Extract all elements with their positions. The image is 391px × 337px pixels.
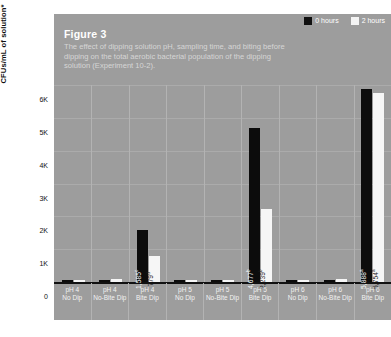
x-axis-labels: pH 4No DippH 4No-Bite DippH 4Bite DippH … — [54, 283, 391, 320]
x-axis-cell: pH 4No-Bite Dip — [92, 283, 130, 320]
y-axis-title: CFUs/mL of solution* — [0, 0, 8, 104]
bar-0-hours[interactable]: 5,888a — [361, 89, 372, 282]
bar-2-hours[interactable]: 2,239b — [261, 209, 272, 283]
x-axis-label: pH 4No-Bite Dip — [93, 286, 126, 302]
bar-group: 4,677b2,239b — [242, 85, 279, 282]
bar-0-hours[interactable] — [62, 280, 73, 282]
y-tick-4K: 4K — [39, 161, 48, 168]
y-tick-6K: 6K — [39, 96, 48, 103]
bar-group: 1,585c779d — [130, 85, 167, 282]
bar-group: 5,888a5,754a — [355, 85, 391, 282]
y-tick-1K: 1K — [39, 260, 48, 267]
x-axis-cell: pH 5Bite Dip — [242, 283, 280, 320]
bar-group — [317, 85, 354, 282]
x-axis-label: pH 5No Dip — [175, 286, 195, 302]
x-axis-label: pH 4No Dip — [62, 286, 82, 302]
bar-groups: 1,585c779d4,677b2,239b5,888a5,754a — [55, 85, 391, 282]
x-axis-cell: pH 4Bite Dip — [129, 283, 167, 320]
x-axis-label: pH 5Bite Dip — [249, 286, 272, 302]
bar-2-hours[interactable] — [298, 280, 309, 282]
y-tick-3K: 3K — [39, 194, 48, 201]
bar-2-hours[interactable] — [223, 280, 234, 282]
bar-0-hours[interactable] — [324, 280, 335, 282]
x-axis-label: pH 5No-Bite Dip — [206, 286, 239, 302]
bar-2-hours[interactable]: 5,754a — [373, 93, 384, 282]
x-axis-cell: pH 6No Dip — [279, 283, 317, 320]
bar-group — [205, 85, 242, 282]
y-tick-5K: 5K — [39, 128, 48, 135]
bar-0-hours[interactable] — [174, 280, 185, 282]
bar-2-hours[interactable] — [111, 279, 122, 282]
x-axis-cell: pH 6Bite Dip — [355, 283, 391, 320]
y-tick-0: 0 — [44, 293, 48, 300]
bar-2-hours[interactable] — [74, 280, 85, 282]
bar-2-hours[interactable] — [336, 279, 347, 282]
bar-0-hours[interactable] — [99, 280, 110, 282]
y-tick-2K: 2K — [39, 227, 48, 234]
bar-group — [280, 85, 317, 282]
x-axis-label: pH 6No-Bite Dip — [319, 286, 352, 302]
bar-2-hours[interactable]: 779d — [149, 256, 160, 282]
plot-area: 1,585c779d4,677b2,239b5,888a5,754a — [54, 85, 391, 282]
bar-0-hours[interactable] — [211, 280, 222, 282]
x-axis-cell: pH 4No Dip — [54, 283, 92, 320]
x-axis-cell: pH 5No Dip — [167, 283, 205, 320]
y-axis-ticks: 01K2K3K4K5K6K — [22, 99, 52, 282]
x-axis-cell: pH 5No-Bite Dip — [204, 283, 242, 320]
bar-0-hours[interactable]: 4,677b — [249, 128, 260, 282]
x-axis-cell: pH 6No-Bite Dip — [317, 283, 355, 320]
bar-group — [167, 85, 204, 282]
figure-3-chart: 0 hours 2 hours Figure 3 The effect of d… — [0, 0, 391, 337]
x-axis-label: pH 6No Dip — [288, 286, 308, 302]
bar-2-hours[interactable] — [186, 280, 197, 282]
bar-group — [55, 85, 92, 282]
bar-group — [92, 85, 129, 282]
x-axis-label: pH 6Bite Dip — [361, 286, 384, 302]
bar-0-hours[interactable] — [286, 280, 297, 282]
x-axis-label: pH 4Bite Dip — [136, 286, 159, 302]
